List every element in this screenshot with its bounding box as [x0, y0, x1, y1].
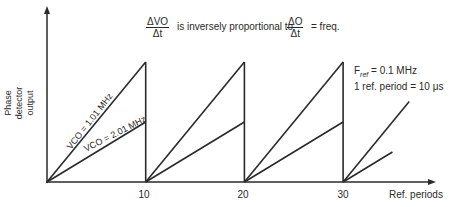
ramp-segment-series-1 — [244, 62, 343, 182]
equation-right-fraction: ΔO Δt — [287, 16, 303, 39]
x-axis-arrow-icon — [428, 179, 436, 185]
y-axis-label-line: detector — [14, 86, 25, 120]
ramp-segment-series-2 — [146, 122, 245, 182]
period-note: 1 ref. period = 10 μs — [354, 81, 443, 93]
x-axis-label: Ref. periods — [389, 189, 443, 200]
fref-value: = 0.1 MHz — [371, 65, 417, 76]
equation-suffix: = freq. — [311, 21, 340, 32]
ramp-segment-series-1 — [146, 62, 245, 182]
equation-relation: is inversely proportional to — [177, 21, 293, 32]
y-axis-label-line: Phase — [3, 86, 14, 120]
x-tick-label: 20 — [237, 189, 249, 200]
fref-subscript: ref — [360, 71, 368, 78]
ramp-segment-series-1 — [343, 102, 409, 182]
ramp-segment-series-2 — [244, 122, 343, 182]
x-tick-label: 30 — [337, 189, 349, 200]
x-tick-label: 10 — [138, 189, 150, 200]
x-tick-labels: 10 20 30 Ref. periods — [138, 189, 442, 200]
equation-left-fraction: ΔVO Δt — [146, 16, 169, 39]
fref-note: Fref = 0.1 MHz — [354, 65, 443, 81]
y-axis-label: Phase detector output — [3, 86, 36, 120]
equation-right-denominator: Δt — [287, 28, 303, 39]
equation-left-numerator: ΔVO — [146, 16, 169, 28]
ramp-segment-series-2 — [343, 152, 392, 182]
y-axis-label-line: output — [25, 86, 36, 120]
equation-left-denominator: Δt — [146, 28, 169, 39]
equation-right-numerator: ΔO — [287, 16, 303, 28]
reference-notes: Fref = 0.1 MHz 1 ref. period = 10 μs — [354, 65, 443, 93]
y-axis-arrow-icon — [44, 6, 50, 14]
